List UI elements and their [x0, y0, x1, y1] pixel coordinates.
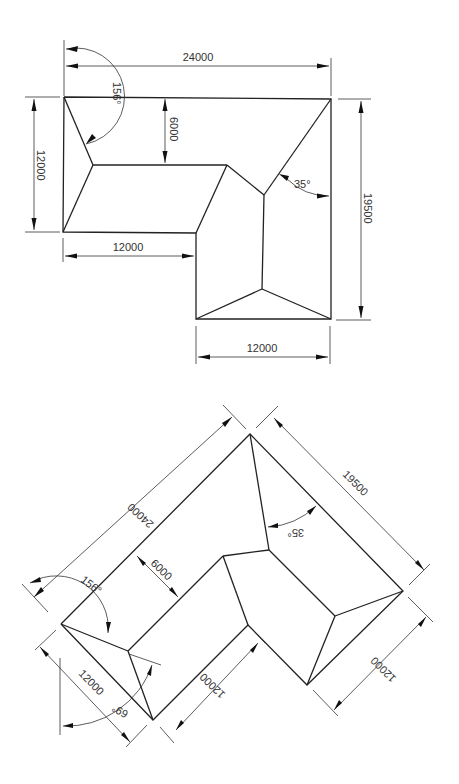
rotated-dim-19500: 19500 — [341, 468, 371, 498]
rotated-ridge-main — [128, 556, 223, 651]
plan-view: 24000 156° 12000 6000 12000 35° — [25, 40, 374, 364]
plan-left-hip-bottom — [63, 165, 93, 232]
roof-plan-drawing: 24000 156° 12000 6000 12000 35° — [0, 0, 459, 784]
rotated-dim-12000-right: 12000 — [368, 655, 398, 685]
plan-outline — [63, 97, 331, 319]
rotated-left-hip-a — [61, 624, 128, 651]
rotated-ridge-wing — [269, 550, 335, 616]
plan-valley — [196, 165, 227, 233]
plan-dim-6000: 6000 — [168, 117, 180, 141]
rotated-dim-6000: 6000 — [149, 557, 175, 583]
plan-left-hip-top — [64, 97, 93, 165]
plan-ridge-link — [227, 165, 264, 195]
rotated-angle-35: 35° — [287, 527, 304, 539]
plan-angle-35: 35° — [294, 178, 311, 190]
plan-angle-156: 156° — [111, 82, 123, 105]
rotated-ridge-link — [223, 550, 269, 556]
plan-dim-12000-bottom: 12000 — [247, 342, 278, 354]
rotated-hip-right — [335, 591, 403, 616]
plan-dim-12000-left: 12000 — [35, 150, 47, 181]
rotated-dim-12000-left: 12000 — [77, 667, 107, 697]
rotated-hip-bottom — [307, 616, 335, 685]
plan-ridge-wing — [262, 195, 264, 289]
rotated-view: 24000 156° 6000 12000 69° 12000 — [22, 405, 433, 747]
rotated-dim-24000: 24000 — [125, 501, 156, 531]
plan-dim-12000-lower: 12000 — [113, 241, 144, 253]
plan-hip-bottomright — [262, 289, 331, 319]
rotated-angle-69: 69° — [110, 702, 130, 721]
rotated-valley — [223, 556, 248, 625]
rotated-dim-12000-lower: 12000 — [197, 671, 227, 701]
plan-dim-24000: 24000 — [183, 51, 214, 63]
plan-dim-19500: 19500 — [362, 193, 374, 224]
plan-hip-bottomleft — [196, 289, 262, 319]
